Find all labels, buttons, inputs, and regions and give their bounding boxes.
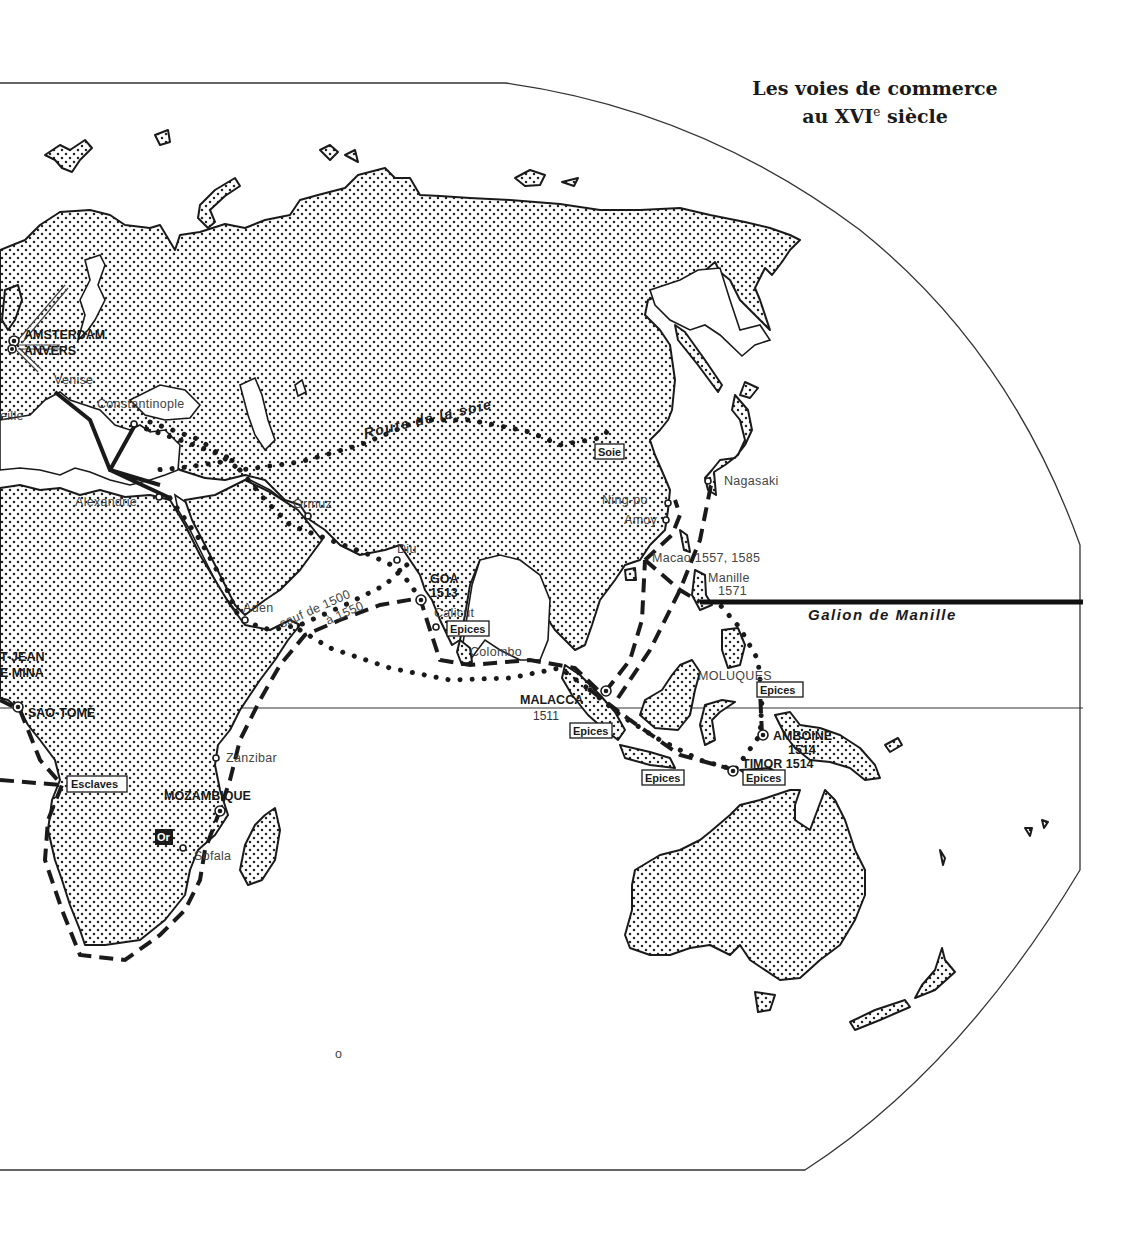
pacific-islet-3 [1042, 820, 1048, 828]
new-zealand-south [850, 1000, 910, 1030]
label-moluques: MOLUQUES [698, 669, 772, 683]
svg-text:Or: Or [157, 831, 171, 843]
label-manille-year: 1571 [718, 584, 747, 598]
label-timor: TIMOR 1514 [742, 757, 814, 771]
label-sofala: Sofala [194, 849, 231, 863]
label-amoy: Amoy [624, 513, 658, 527]
svg-text:Epices: Epices [760, 684, 795, 696]
australia [625, 790, 865, 980]
label-ormuz: Ormuz [293, 497, 332, 511]
svg-text:Epices: Epices [645, 772, 680, 784]
hainan [625, 568, 636, 580]
label-mozambique: MOZAMBIQUE [164, 789, 251, 803]
label-anvers: ANVERS [24, 344, 76, 358]
svalbard [45, 140, 92, 172]
label-diu: Diu [397, 542, 417, 556]
tasmania [755, 992, 775, 1012]
label-manille: Manille [708, 571, 750, 585]
ocean-speck: o [335, 1047, 342, 1061]
route-slave-trade [0, 780, 62, 785]
label-venise: Venise [54, 373, 93, 387]
label-constantinople: Constantinople [97, 397, 185, 411]
sakhalin [675, 325, 722, 392]
label-calicut: Calicut [434, 606, 475, 620]
java [620, 745, 675, 768]
label-macao: Macao 1557, 1585 [652, 551, 760, 565]
map-title: Les voies de commerce au XVIe siècle [700, 76, 1050, 128]
goods-box-or: Or [155, 829, 173, 845]
borneo [640, 660, 700, 730]
label-ningpo: Ning-po [602, 493, 648, 507]
label-saint-jean: T-JEAN [0, 650, 44, 664]
label-manila-galleon: Galion de Manille [808, 606, 957, 623]
label-alexandrie: Alexandrie [75, 495, 137, 509]
island-arctic-4 [515, 170, 545, 186]
trade-routes-map: Soie Epices Epices Epices Epices Epices … [0, 0, 1147, 1241]
label-zanzibar: Zanzibar [226, 751, 277, 765]
label-colombo: Colombo [470, 645, 522, 659]
title-line-1: Les voies de commerce [700, 76, 1050, 100]
island-arctic-3 [345, 150, 358, 162]
goods-box-soie: Soie [595, 444, 624, 459]
goods-box-esclaves: Esclaves [67, 776, 127, 792]
pacific-islet-1 [940, 850, 945, 865]
label-goa: GOA [430, 572, 458, 586]
goods-box-epices-sumatra: Epices [570, 723, 612, 738]
island-arctic-1 [155, 130, 170, 145]
pacific-islet-2 [1025, 828, 1032, 836]
label-malacca-year: 1511 [533, 709, 559, 723]
goods-box-epices-java: Epices [642, 770, 684, 785]
label-amboine-year: 1514 [788, 743, 816, 757]
label-amboine: AMBOINE [773, 729, 832, 743]
goods-box-epices-calicut: Epices [447, 621, 489, 636]
new-britain [885, 738, 902, 752]
svg-text:Epices: Epices [450, 623, 485, 635]
svg-text:Epices: Epices [746, 772, 781, 784]
goods-box-epices-moluques: Epices [757, 682, 803, 697]
novaya-zemlya [198, 178, 240, 228]
label-malacca: MALACCA [520, 693, 583, 707]
label-mina: E MINA [0, 666, 44, 680]
label-amsterdam: AMSTERDAM [24, 328, 105, 342]
label-goa-year: 1513 [430, 586, 458, 600]
label-marseille: eille [0, 409, 24, 423]
label-nagasaki: Nagasaki [724, 474, 779, 488]
goods-box-epices-timor: Epices [743, 770, 785, 785]
svg-text:Epices: Epices [573, 725, 608, 737]
island-arctic-2 [320, 145, 338, 160]
svg-text:Soie: Soie [598, 446, 621, 458]
island-arctic-5 [562, 178, 578, 186]
svg-text:Esclaves: Esclaves [71, 778, 118, 790]
madagascar [240, 808, 280, 885]
new-zealand-north [915, 948, 955, 998]
label-sao-tome: SAO-TOMÉ [28, 705, 95, 720]
title-line-2: au XVIe siècle [700, 100, 1050, 128]
label-aden: Aden [243, 601, 273, 615]
taiwan [680, 530, 690, 552]
celebes [700, 700, 735, 745]
hokkaido [740, 382, 758, 398]
